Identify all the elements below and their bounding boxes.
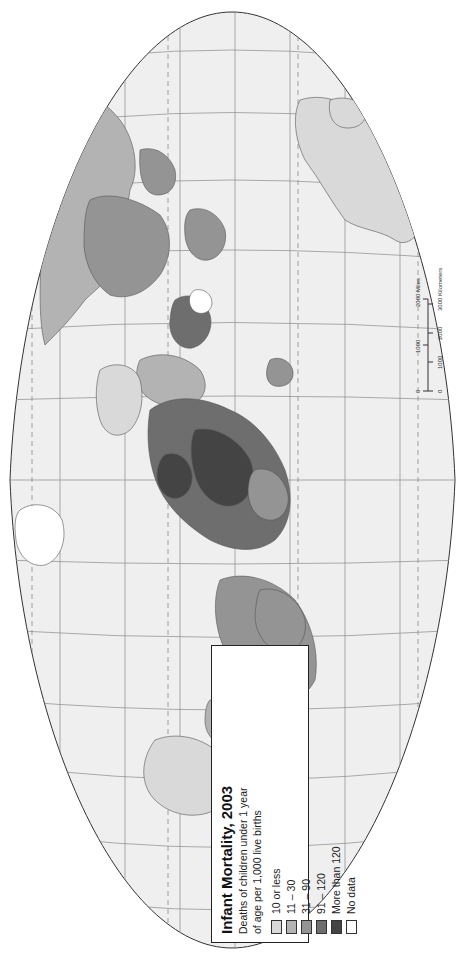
legend-item: 31 – 90: [299, 654, 313, 934]
legend-swatch: [331, 920, 342, 934]
legend-swatch: [346, 920, 357, 934]
legend-title: Infant Mortality, 2003: [218, 654, 235, 934]
scale-bar-content: 0 1000 2000 Miles 0 1000 2000 3000 Kilom…: [412, 254, 446, 399]
legend-item: 11 – 30: [284, 654, 298, 934]
legend-content: Infant Mortality, 2003 Deaths of childre…: [212, 646, 308, 942]
legend-item: 10 or less: [269, 654, 283, 934]
scale-km-2000: 2000: [437, 326, 443, 340]
legend-subtitle-line1: Deaths of children under 1 year: [237, 654, 249, 934]
scale-km-0: 0: [437, 389, 443, 393]
scale-mile-1000: 1000: [415, 339, 421, 353]
legend-label: More than 120: [330, 846, 342, 914]
scale-bar-graphic: 0 1000 2000 Miles 0 1000 2000 3000 Kilom…: [412, 254, 446, 399]
scale-bar: 0 1000 2000 Miles 0 1000 2000 3000 Kilom…: [412, 254, 446, 399]
legend-item: 91 – 120: [314, 654, 328, 934]
legend-swatch: [301, 920, 312, 934]
scale-km-3000: 3000 Kilometers: [437, 268, 443, 311]
legend-label: No data: [345, 877, 357, 914]
legend-label: 11 – 30: [285, 880, 297, 914]
legend: Infant Mortality, 2003 Deaths of childre…: [211, 645, 309, 943]
legend-label: 10 or less: [270, 868, 282, 914]
scale-km-1000: 1000: [437, 355, 443, 369]
legend-label: 31 – 90: [300, 879, 312, 914]
scale-mile-2000: 2000 Miles: [415, 278, 421, 307]
legend-label: 91 – 120: [315, 873, 327, 914]
legend-items: 10 or less 11 – 30 31 – 90 91 – 120 More…: [269, 654, 358, 934]
legend-swatch: [271, 920, 282, 934]
legend-subtitle-line2: of age per 1,000 live births: [251, 654, 263, 934]
legend-swatch: [316, 920, 327, 934]
legend-swatch: [286, 920, 297, 934]
scale-mile-0: 0: [415, 389, 421, 393]
legend-item: More than 120: [329, 654, 343, 934]
legend-item: No data: [344, 654, 358, 934]
